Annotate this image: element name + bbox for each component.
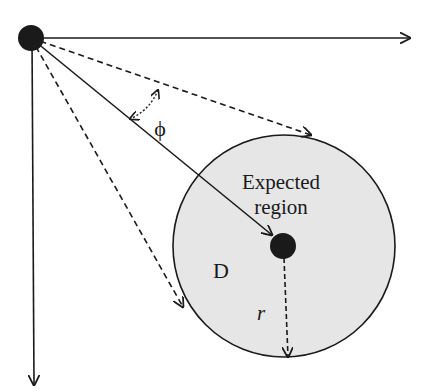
origin-node [18, 25, 44, 51]
expected-region-diagram: ϕ Expected region D r [0, 0, 425, 392]
target-node [270, 233, 296, 259]
region-label-line2: region [254, 195, 308, 219]
radius-label: r [257, 301, 266, 325]
center-direction-arrow [31, 38, 272, 235]
upper-tangent-dashed-arrow [31, 38, 311, 135]
y-axis-arrow [32, 38, 34, 385]
lower-tangent-dashed-arrow [31, 38, 183, 307]
region-name-label: D [213, 258, 229, 283]
angle-label: ϕ [154, 116, 166, 141]
angle-arc [130, 90, 158, 119]
region-label-line1: Expected [242, 170, 321, 194]
